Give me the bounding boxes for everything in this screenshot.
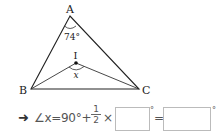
answer-box-2[interactable] [163, 107, 211, 131]
times-sign: × [103, 111, 113, 125]
answer-box-1[interactable] [115, 107, 150, 131]
equation-expression: ∠x=90°+ [34, 111, 91, 125]
equation-row: ➜ ∠x=90°+ 1 2 × ° = ° [0, 104, 221, 134]
triangle-abc [31, 16, 139, 89]
segment-ci [76, 63, 139, 89]
label-c: C [142, 84, 150, 97]
angle-a-value: 74° [64, 32, 80, 42]
fraction-one-half: 1 2 [91, 104, 101, 125]
angle-arc-a [65, 26, 77, 29]
label-b: B [19, 84, 27, 97]
incenter-point [74, 61, 78, 65]
fraction-numerator: 1 [91, 104, 101, 115]
arrow-icon: ➜ [18, 110, 29, 125]
angle-x-label: x [74, 70, 79, 80]
label-i: I [74, 50, 78, 61]
degree-sign-2: ° [212, 106, 216, 115]
fraction-denominator: 2 [91, 115, 101, 125]
label-a: A [65, 3, 75, 16]
triangle-diagram: A B C I 74° x [0, 0, 221, 104]
